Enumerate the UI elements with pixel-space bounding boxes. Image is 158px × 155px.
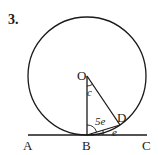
angle-label-e: e bbox=[112, 126, 117, 138]
point-label-b: B bbox=[82, 138, 91, 153]
angle-label-c: c bbox=[87, 86, 92, 98]
point-label-o: O bbox=[77, 68, 86, 83]
angle-label-5e: 5e bbox=[95, 115, 106, 127]
point-label-c: C bbox=[142, 138, 151, 153]
point-label-d: D bbox=[117, 110, 126, 125]
geometry-diagram: 3. O B D A C c 5e e bbox=[0, 0, 158, 155]
point-label-a: A bbox=[23, 138, 33, 153]
problem-number: 3. bbox=[8, 12, 19, 27]
